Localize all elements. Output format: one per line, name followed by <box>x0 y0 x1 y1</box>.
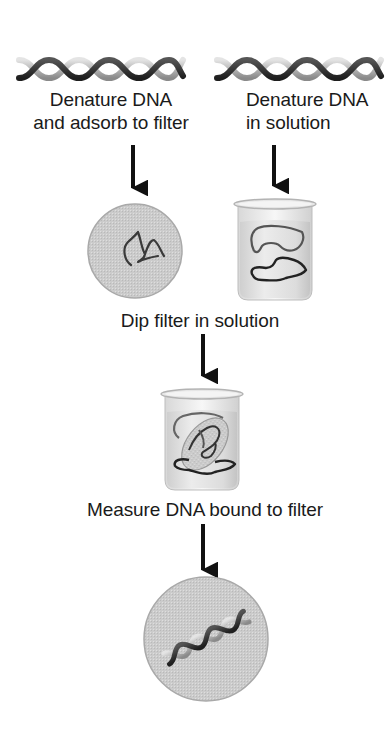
filter-disc-icon <box>86 202 184 300</box>
beaker-icon <box>232 196 318 302</box>
filter-disc-icon <box>142 576 270 702</box>
step-label-dip: Dip filter in solution <box>0 309 385 332</box>
beaker-with-filter-icon <box>159 386 245 492</box>
step-label-measure: Measure DNA bound to filter <box>0 498 385 521</box>
